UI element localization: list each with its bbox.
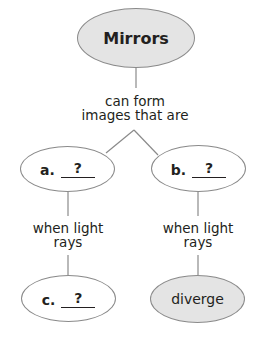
- node-c: c. ?: [21, 275, 116, 322]
- link-b-line2: rays: [143, 235, 253, 249]
- root-link-line2: images that are: [60, 108, 210, 122]
- root-link-label: can form images that are: [60, 94, 210, 122]
- node-a-blank: ?: [61, 160, 95, 178]
- link-b-label: when light rays: [143, 221, 253, 249]
- root-node-label: Mirrors: [103, 29, 169, 48]
- node-diverge-label: diverge: [171, 291, 224, 307]
- link-b-line1: when light: [143, 221, 253, 235]
- node-b-blank: ?: [192, 160, 226, 178]
- node-a: a. ?: [20, 146, 115, 192]
- node-c-prefix: c.: [42, 292, 56, 308]
- node-b-prefix: b.: [171, 162, 186, 178]
- root-link-line1: can form: [60, 94, 210, 108]
- node-b: b. ?: [151, 145, 246, 192]
- root-node-mirrors: Mirrors: [77, 8, 195, 68]
- link-a-line1: when light: [13, 221, 123, 235]
- link-a-label: when light rays: [13, 221, 123, 249]
- node-diverge: diverge: [150, 275, 245, 323]
- node-a-prefix: a.: [40, 162, 55, 178]
- link-a-line2: rays: [13, 235, 123, 249]
- node-c-blank: ?: [61, 290, 95, 308]
